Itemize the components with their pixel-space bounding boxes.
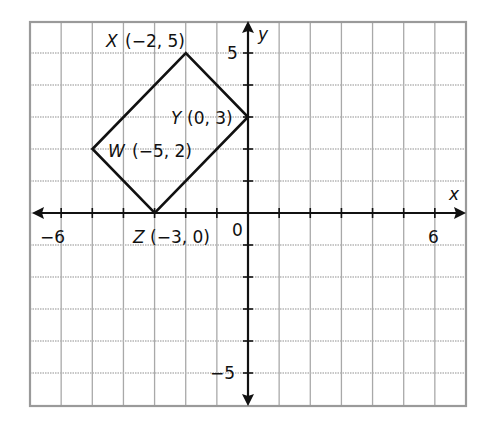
svg-text:(−5, 2): (−5, 2) bbox=[132, 141, 192, 161]
svg-text:Z: Z bbox=[132, 227, 145, 247]
svg-text:(−2, 5): (−2, 5) bbox=[125, 31, 185, 51]
point-label-x: X (−2, 5) bbox=[105, 31, 185, 51]
tick-label-x-neg6: −6 bbox=[40, 227, 65, 247]
tick-label-y-neg5: −5 bbox=[210, 363, 235, 383]
point-label-y: Y (0, 3) bbox=[171, 108, 233, 128]
origin-label: 0 bbox=[232, 220, 243, 240]
svg-text:Y: Y bbox=[171, 108, 183, 128]
tick-label-y-5: 5 bbox=[227, 43, 238, 63]
point-label-z: Z (−3, 0) bbox=[132, 227, 210, 247]
x-axis-label: x bbox=[448, 184, 460, 204]
tick-label-x-6: 6 bbox=[428, 227, 439, 247]
svg-text:X: X bbox=[105, 31, 118, 51]
svg-text:(−3, 0): (−3, 0) bbox=[150, 227, 210, 247]
coordinate-plane: x y 0 −6 6 5 −5 X (−2, 5) Y (0, 3) W (−5… bbox=[0, 0, 488, 422]
point-label-w: W (−5, 2) bbox=[108, 141, 192, 161]
svg-text:W: W bbox=[108, 141, 126, 161]
y-axis-label: y bbox=[257, 24, 269, 44]
polygon-wxyz bbox=[93, 53, 249, 213]
svg-text:(0, 3): (0, 3) bbox=[187, 108, 233, 128]
